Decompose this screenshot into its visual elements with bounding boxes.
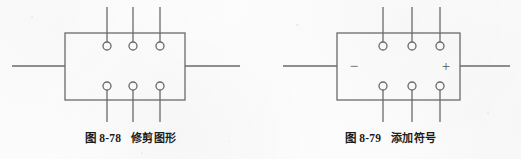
top-terminal-circle-3 (436, 42, 444, 50)
bottom-terminal-circle-3 (156, 82, 164, 90)
figure-symbols-caption-number: 图 8-79 (345, 132, 381, 144)
figure-trim-drawing (0, 0, 261, 130)
bottom-terminal-circle-2 (129, 82, 137, 90)
figure-symbols-caption-text: 添加符号 (391, 132, 436, 145)
component-body-rect (65, 33, 185, 100)
figure-symbols-drawing: − + (260, 0, 521, 130)
figure-trim-caption: 图 8-78修剪图形 (0, 129, 261, 145)
bottom-terminal-circle-3 (436, 82, 444, 90)
top-terminal-circle-2 (408, 42, 416, 50)
top-terminal-circle-3 (156, 42, 164, 50)
plus-sign-icon: + (442, 58, 450, 74)
figure-trim-svg (0, 0, 261, 130)
bottom-terminal-circle-1 (379, 82, 387, 90)
top-terminal-circle-1 (103, 42, 111, 50)
figure-trim-caption-number: 图 8-78 (85, 132, 121, 144)
bottom-terminal-circle-2 (408, 82, 416, 90)
figure-trim-caption-text: 修剪图形 (131, 132, 176, 145)
top-terminal-circle-2 (129, 42, 137, 50)
figure-symbols-caption: 图 8-79添加符号 (260, 129, 521, 145)
bottom-terminal-circle-1 (103, 82, 111, 90)
figure-symbols: − + 图 8-79添加符号 (260, 0, 521, 159)
scanned-page: 图 8-78修剪图形 (0, 0, 521, 159)
minus-sign-icon: − (350, 58, 358, 74)
figure-trim: 图 8-78修剪图形 (0, 0, 261, 159)
top-terminal-circle-1 (379, 42, 387, 50)
figure-symbols-svg: − + (260, 0, 521, 130)
